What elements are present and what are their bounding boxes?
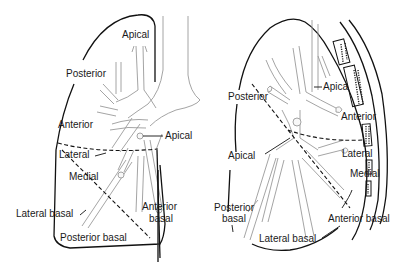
label-apical-upper-left: Apical <box>122 29 149 40</box>
lobar-bronchus-right <box>293 118 301 126</box>
label-anterior-basal-left-1: Anterior <box>142 201 178 212</box>
label-posterior-basal-right-1: Posterior <box>214 202 255 213</box>
label-medial-left: Medial <box>69 171 98 182</box>
label-posterior-basal-left: Posterior basal <box>60 232 127 243</box>
lateral-basal-leader-left <box>80 210 86 215</box>
posterior-bronchus-tip <box>267 86 272 92</box>
medial-bronchus-tip <box>118 172 124 178</box>
posterior-basal-leader-right <box>232 225 233 232</box>
label-anterior-basal-right: Anterior basal <box>328 213 390 224</box>
left-lung-outline <box>54 15 165 262</box>
label-posterior-right: Posterior <box>228 91 269 102</box>
label-posterior-left: Posterior <box>66 68 107 79</box>
trachea <box>148 16 200 104</box>
apical-segment-marker <box>137 133 143 139</box>
horizontal-fissure-right <box>288 130 364 140</box>
label-apical-lower-right: Apical <box>228 150 255 161</box>
left-lung-view: Apical Posterior Anterior Apical Lateral… <box>16 15 200 262</box>
label-lateral-right: Lateral <box>342 148 373 159</box>
label-lateral-basal-right: Lateral basal <box>259 233 316 244</box>
apical-lower-leader-right <box>265 138 290 154</box>
label-lateral-left: Lateral <box>59 149 90 160</box>
label-anterior-basal-left-2: basal <box>149 213 173 224</box>
label-apical-upper-right: Apica <box>323 81 348 92</box>
right-lung-view: Posterior Apica Anterior Apical Lateral … <box>214 19 390 250</box>
label-apical-lower-left: Apical <box>165 130 192 141</box>
label-posterior-basal-right-2: basal <box>222 213 246 224</box>
lateral-basal-leader-right <box>322 226 340 238</box>
lateral-leader-left <box>95 153 106 156</box>
lung-segments-diagram: Apical Posterior Anterior Apical Lateral… <box>0 0 410 262</box>
label-anterior-right: Anterior <box>341 111 377 122</box>
label-anterior-left: Anterior <box>58 119 94 130</box>
label-medial-right: Medial <box>350 168 379 179</box>
bronchial-tree-right <box>244 20 344 240</box>
oblique-fissure-right <box>252 84 350 208</box>
label-lateral-basal-left: Lateral basal <box>16 208 73 219</box>
